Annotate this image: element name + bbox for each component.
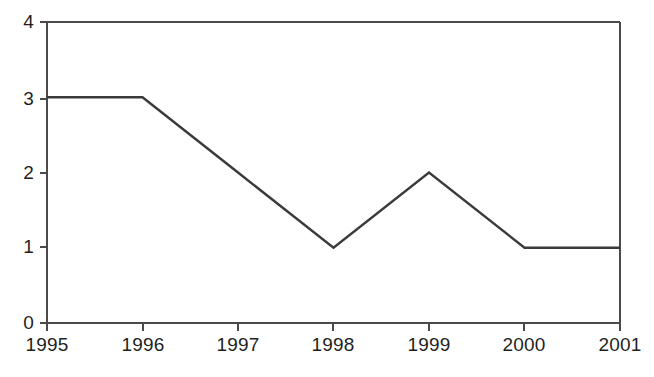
y-tick-label-0: 0 [23, 312, 34, 333]
x-tick-label-1995: 1995 [25, 334, 68, 355]
x-tick-label-2000: 2000 [502, 334, 545, 355]
x-tick-label-1998: 1998 [311, 334, 354, 355]
chart-background [0, 0, 654, 377]
x-tick-label-1999: 1999 [407, 334, 450, 355]
x-tick-label-1996: 1996 [121, 334, 164, 355]
x-tick-label-1997: 1997 [216, 334, 259, 355]
line-chart-figure: 4 3 2 1 0 1995 1996 1997 1998 1999 2000 … [0, 0, 654, 377]
x-tick-label-2001: 2001 [598, 334, 641, 355]
chart-canvas: 4 3 2 1 0 1995 1996 1997 1998 1999 2000 … [0, 0, 654, 377]
y-tick-label-4: 4 [23, 11, 34, 32]
y-tick-label-2: 2 [23, 162, 34, 183]
y-tick-label-1: 1 [23, 236, 34, 257]
y-tick-label-3: 3 [23, 88, 34, 109]
